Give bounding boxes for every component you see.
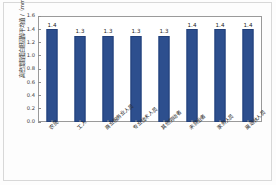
y-axis-tick-label: 0.0 xyxy=(27,118,35,124)
bar-value-label: 1.3 xyxy=(76,28,85,34)
bar-slot: 1.3 xyxy=(66,16,94,122)
bar[interactable] xyxy=(243,29,254,122)
bar[interactable] xyxy=(215,29,226,122)
bar-value-label: 1.3 xyxy=(132,28,141,34)
y-axis-tick-label: 0.8 xyxy=(27,65,35,71)
x-axis-labels: 农民工人商业服务业人员专业技术人员其他劳动者未就业者家务人员离退休人员 xyxy=(38,122,262,182)
y-axis-tick-label: 1.4 xyxy=(27,26,35,32)
y-axis-title: 高密度脂蛋白胆固醇平均值 /（mmol/L） xyxy=(19,0,25,91)
bar-value-label: 1.4 xyxy=(48,22,57,28)
bar-value-label: 1.3 xyxy=(160,28,169,34)
y-axis-tick-label: 1.0 xyxy=(27,52,35,58)
bars-layer: 1.41.31.31.31.31.41.41.4 xyxy=(38,16,262,122)
y-axis-tick-label: 0.6 xyxy=(27,79,35,85)
bar-slot: 1.4 xyxy=(206,16,234,122)
bar-slot: 1.4 xyxy=(234,16,262,122)
bar-slot: 1.4 xyxy=(38,16,66,122)
y-axis-tick-label: 0.4 xyxy=(27,92,35,98)
bar-slot: 1.3 xyxy=(94,16,122,122)
bar[interactable] xyxy=(159,36,170,122)
bar-value-label: 1.4 xyxy=(216,22,225,28)
y-axis-tick-label: 1.6 xyxy=(27,12,35,18)
bar-value-label: 1.4 xyxy=(188,22,197,28)
bar[interactable] xyxy=(47,29,58,122)
bar-chart-figure: 高密度脂蛋白胆固醇平均值 /（mmol/L） 1.61.41.21.00.80.… xyxy=(0,0,276,185)
y-axis-tick-label: 1.2 xyxy=(27,39,35,45)
bar-slot: 1.4 xyxy=(178,16,206,122)
bar[interactable] xyxy=(187,29,198,122)
y-axis-tick-label: 0.2 xyxy=(27,105,35,111)
bar-value-label: 1.4 xyxy=(244,22,253,28)
bar[interactable] xyxy=(75,36,86,122)
bar[interactable] xyxy=(103,36,114,122)
bar[interactable] xyxy=(131,36,142,122)
bar-value-label: 1.3 xyxy=(104,28,113,34)
